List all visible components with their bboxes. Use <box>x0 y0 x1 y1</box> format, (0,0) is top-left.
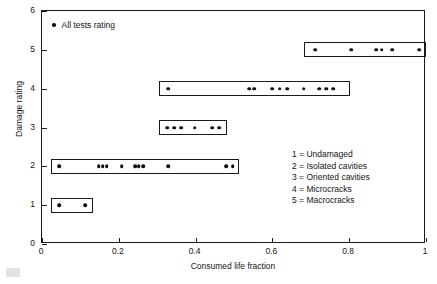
x-tick <box>119 238 120 242</box>
damage-rating-scatter-chart: Damage rating 00.20.40.60.81 0123456 Con… <box>0 0 437 284</box>
rating-key-row: 3 = Oriented cavities <box>292 172 370 184</box>
data-point <box>120 165 124 169</box>
data-point <box>247 87 251 91</box>
data-point <box>317 87 321 91</box>
data-point <box>179 126 183 130</box>
x-tick-label: 0.4 <box>180 246 210 256</box>
data-point <box>278 87 282 91</box>
data-point <box>252 87 256 91</box>
data-point <box>105 165 109 169</box>
y-tick <box>42 244 47 245</box>
data-point <box>374 48 378 52</box>
data-point <box>331 87 335 91</box>
y-tick-label: 4 <box>13 83 35 93</box>
data-point <box>166 87 170 91</box>
page-scan-artifact <box>6 268 20 277</box>
y-tick <box>42 11 47 12</box>
series-legend-label: All tests rating <box>62 20 115 30</box>
plot-area <box>41 10 425 243</box>
y-tick-label: 5 <box>13 44 35 54</box>
rating-key-row: 4 = Microcracks <box>292 184 370 196</box>
x-tick-label: 0.8 <box>333 246 363 256</box>
data-point <box>271 87 275 91</box>
y-axis-title: Damage rating <box>14 49 24 169</box>
data-point <box>141 165 145 169</box>
x-tick <box>349 238 350 242</box>
y-tick-label: 6 <box>13 5 35 15</box>
x-axis-title: Consumed life fraction <box>41 261 425 271</box>
data-point <box>302 87 306 91</box>
data-point <box>349 48 353 52</box>
y-tick <box>42 89 47 90</box>
y-tick <box>42 128 47 129</box>
group-box-rating-5 <box>304 42 426 57</box>
data-point <box>224 165 228 169</box>
x-tick-label: 0.2 <box>103 246 133 256</box>
data-point <box>193 126 197 130</box>
data-point <box>137 165 141 169</box>
filled-circle-marker-icon <box>52 23 56 27</box>
x-tick-label: 0.6 <box>256 246 286 256</box>
y-tick-label: 3 <box>13 122 35 132</box>
rating-key: 1 = Undamaged2 = Isolated cavities3 = Or… <box>292 149 370 207</box>
y-tick <box>42 205 47 206</box>
x-tick <box>42 238 43 242</box>
y-tick <box>42 166 47 167</box>
data-point <box>324 87 328 91</box>
data-point <box>172 126 176 130</box>
data-point <box>166 165 170 169</box>
series-legend: All tests rating <box>52 20 115 30</box>
data-point <box>390 48 394 52</box>
y-tick <box>42 50 47 51</box>
y-tick-label: 1 <box>13 199 35 209</box>
x-tick-label: 1 <box>410 246 437 256</box>
rating-key-row: 1 = Undamaged <box>292 149 370 161</box>
rating-key-row: 5 = Macrocracks <box>292 195 370 207</box>
data-point <box>417 48 421 52</box>
data-point <box>314 48 318 52</box>
x-tick <box>196 238 197 242</box>
data-point <box>84 203 88 207</box>
rating-key-row: 2 = Isolated cavities <box>292 161 370 173</box>
data-point <box>57 203 61 207</box>
data-point <box>285 87 289 91</box>
y-tick-label: 0 <box>13 238 35 248</box>
data-point <box>380 48 384 52</box>
data-point <box>165 126 169 130</box>
group-box-rating-2 <box>51 159 239 174</box>
x-tick <box>272 238 273 242</box>
x-tick <box>426 238 427 242</box>
data-point <box>217 126 221 130</box>
data-point <box>57 165 61 169</box>
data-point <box>210 126 214 130</box>
y-tick-label: 2 <box>13 160 35 170</box>
data-point <box>231 165 235 169</box>
